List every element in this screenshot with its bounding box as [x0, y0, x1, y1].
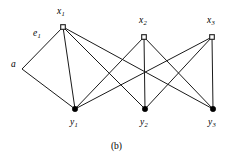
figure-container: ax1x2x3y1y2y3e1 (b)	[0, 0, 233, 164]
vertex-label-x3: x3	[207, 16, 215, 26]
graph-node-y1	[72, 106, 77, 111]
vertex-label-y1: y1	[70, 118, 78, 128]
graph-canvas	[0, 0, 233, 164]
vertex-label-y2: y2	[140, 118, 148, 128]
graph-edge-x1-y1	[63, 27, 75, 109]
figure-caption: (b)	[0, 141, 233, 151]
vertex-label-a: a	[11, 60, 16, 70]
graph-edge-x1-y2	[63, 27, 145, 109]
edge-layer	[22, 27, 213, 109]
edge-label-e1: e1	[33, 29, 41, 39]
vertex-label-y3: y3	[208, 118, 216, 128]
graph-node-x1	[61, 25, 66, 30]
graph-node-x2	[142, 35, 147, 40]
vertex-label-x2: x2	[139, 16, 147, 26]
graph-node-x3	[210, 35, 215, 40]
graph-edge-a-y1	[22, 69, 75, 109]
graph-node-y2	[142, 106, 147, 111]
graph-edge-x1-y3	[63, 27, 213, 109]
graph-edge-e1	[22, 27, 63, 69]
vertex-label-x1: x1	[57, 7, 65, 17]
graph-edge-x3-y1	[75, 37, 212, 109]
graph-edge-x3-y3	[212, 37, 213, 109]
graph-edge-x3-y2	[145, 37, 212, 109]
graph-node-y3	[210, 106, 215, 111]
